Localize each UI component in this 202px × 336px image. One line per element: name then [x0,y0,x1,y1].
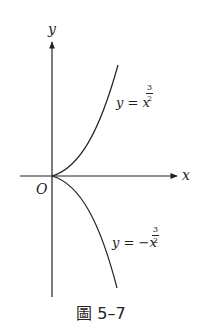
coordinate-plot [0,0,202,336]
figure-caption: 圖 5–7 [0,300,202,324]
equation-lower: y = −x [112,236,157,249]
y-axis-label: y [48,22,56,36]
exponent-lower: 32 [152,226,159,245]
curve-lower [52,176,117,288]
curve-upper [52,65,118,176]
eq-upper-lhs: y = [116,95,143,110]
eq-lower-lhs: y = [112,235,139,250]
exponent-upper: 32 [146,84,153,103]
origin-label: O [36,182,47,196]
x-axis-label: x [182,168,190,182]
eq-lower-sign: − [139,235,150,250]
equation-upper: y = x [116,96,150,109]
